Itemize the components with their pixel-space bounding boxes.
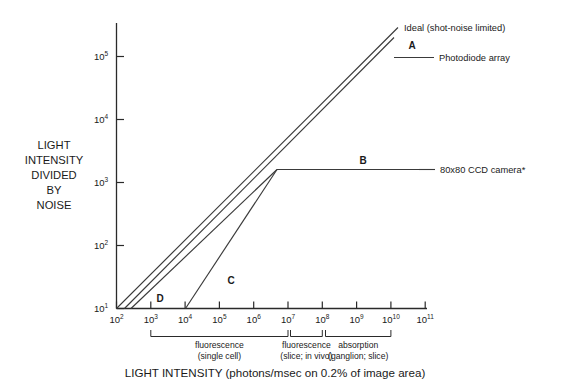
- x-axis-title: LIGHT INTENSITY (photons/msec on 0.2% of…: [125, 366, 426, 379]
- series-key-b: B: [359, 155, 366, 166]
- y-tick-label: 101: [94, 302, 109, 314]
- x-tick-label: 109: [349, 313, 364, 325]
- bracket-fluorescence-slice-in-vivo: [291, 330, 323, 337]
- bracket-absorption-ganglion-slice: [326, 330, 391, 337]
- x-tick-label: 105: [212, 313, 227, 325]
- annotation-photodiode-array: Photodiode array: [439, 53, 510, 63]
- annotation-leaders: [394, 58, 435, 170]
- group-label-fluorescence-single-cell-line2: (single cell): [198, 351, 242, 361]
- bracket-fluorescence-single-cell: [151, 330, 288, 337]
- y-axis-title-line-1: LIGHT: [38, 139, 71, 151]
- series-key-labels: A B C D: [156, 40, 415, 304]
- group-label-fluorescence-single-cell-line1: fluorescence: [195, 340, 244, 350]
- annotation-ideal: Ideal (shot-noise limited): [404, 23, 505, 33]
- x-tick-label: 106: [247, 313, 262, 325]
- x-tick-label: 104: [178, 313, 193, 325]
- chart-axes: [117, 23, 428, 309]
- y-tick-label: 103: [94, 176, 109, 188]
- y-axis-title-line-2: INTENSITY: [25, 154, 84, 166]
- series-key-c: C: [227, 275, 234, 286]
- x-tick-label: 103: [144, 313, 159, 325]
- x-tick-label: 102: [109, 313, 124, 325]
- x-tick-label: 1010: [382, 313, 400, 325]
- x-tick-label: 107: [281, 313, 296, 325]
- group-label-fluorescence-slice-line2: (slice; in vivo): [280, 351, 332, 361]
- series-line-c: [186, 170, 278, 309]
- series-key-a: A: [408, 40, 415, 51]
- x-axis-ticks: 102 103 104 105 106 107 108 109 1010 101…: [109, 302, 434, 326]
- chart-series-group: [117, 28, 420, 309]
- y-axis-ticks: 105 104 103 102 101: [94, 50, 124, 314]
- group-label-fluorescence-slice-line1: fluorescence: [282, 340, 331, 350]
- y-axis-title-line-4: BY: [47, 184, 62, 196]
- y-tick-label: 104: [94, 113, 109, 125]
- series-line-a-photodiode-array: [125, 38, 395, 309]
- x-tick-label: 1011: [417, 313, 435, 325]
- y-axis-title-line-5: NOISE: [37, 199, 72, 211]
- annotation-texts: Ideal (shot-noise limited) Photodiode ar…: [404, 23, 526, 175]
- annotation-ccd-camera: 80x80 CCD camera*: [440, 165, 526, 175]
- series-line-ideal: [117, 28, 399, 309]
- group-label-absorption-line1: absorption: [338, 340, 378, 350]
- x-axis-group-brackets: [151, 330, 391, 337]
- signal-to-noise-log-log-chart: 105 104 103 102 101 102 103: [0, 0, 562, 383]
- x-axis-group-labels: fluorescence (single cell) fluorescence …: [195, 340, 388, 361]
- chart-figure: 105 104 103 102 101 102 103: [0, 0, 562, 383]
- group-label-absorption-line2: (ganglion; slice): [328, 351, 388, 361]
- series-key-d: D: [156, 293, 163, 304]
- y-axis-title-line-3: DIVIDED: [31, 169, 76, 181]
- y-axis-title: LIGHT INTENSITY DIVIDED BY NOISE: [25, 139, 84, 211]
- y-tick-label: 105: [94, 50, 109, 62]
- y-tick-label: 102: [94, 239, 109, 251]
- x-tick-label: 108: [315, 313, 330, 325]
- series-line-d: [131, 170, 277, 309]
